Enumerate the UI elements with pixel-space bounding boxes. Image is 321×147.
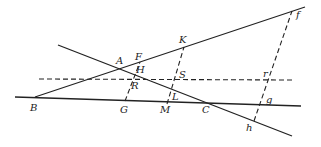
point-label-g: g [266, 94, 272, 105]
line-B-G-M-C-g [15, 97, 301, 106]
point-label-R: R [130, 80, 139, 91]
point-label-h: h [246, 122, 252, 133]
solid-lines [15, 7, 305, 136]
point-label-r: r [263, 68, 269, 79]
point-label-K: K [178, 34, 187, 45]
point-label-F: F [134, 51, 143, 62]
point-label-f: f [295, 9, 302, 20]
geometry-diagram: fKFAHSrRLBGMCgh [0, 0, 321, 147]
point-labels: fKFAHSrRLBGMCgh [29, 9, 302, 133]
point-label-G: G [120, 104, 128, 115]
point-label-H: H [135, 64, 145, 75]
point-label-A: A [115, 55, 123, 66]
point-label-S: S [179, 69, 186, 80]
point-label-B: B [29, 102, 37, 113]
dashed-horizontal-R-S-r [39, 79, 295, 80]
point-label-L: L [171, 91, 179, 102]
point-label-M: M [159, 104, 171, 115]
point-label-C: C [202, 104, 210, 115]
